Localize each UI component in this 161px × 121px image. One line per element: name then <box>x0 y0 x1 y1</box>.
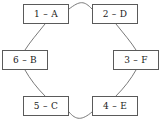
node-2-d[interactable]: 2 – D <box>92 4 138 24</box>
node-label: 5 – C <box>34 102 58 111</box>
node-6-b[interactable]: 6 – B <box>2 50 48 70</box>
edge-n5-n6 <box>25 70 45 96</box>
diagram-canvas: 1 – A 2 – D 3 – F 4 – E 5 – C 6 – B <box>0 0 161 121</box>
edge-n1-n2 <box>69 3 92 9</box>
node-label: 6 – B <box>13 56 37 65</box>
node-1-a[interactable]: 1 – A <box>23 4 69 24</box>
node-4-e[interactable]: 4 – E <box>92 96 138 116</box>
edge-n3-n4 <box>116 70 136 96</box>
edge-n2-n3 <box>116 24 136 50</box>
node-label: 3 – F <box>124 56 148 65</box>
node-label: 4 – E <box>103 102 127 111</box>
node-3-f[interactable]: 3 – F <box>113 50 159 70</box>
edge-n6-n1 <box>25 24 45 50</box>
node-label: 1 – A <box>34 10 58 19</box>
node-5-c[interactable]: 5 – C <box>23 96 69 116</box>
edge-n4-n5 <box>69 112 92 118</box>
node-label: 2 – D <box>103 10 128 19</box>
